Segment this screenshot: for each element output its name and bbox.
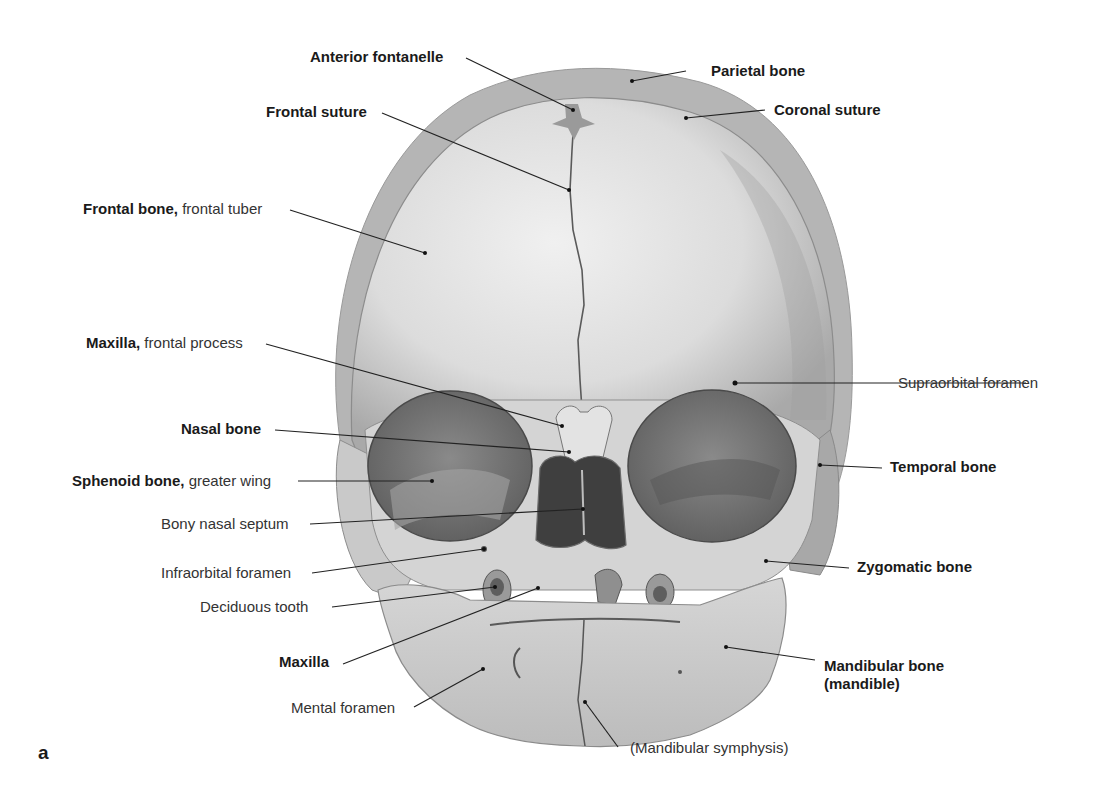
label-zygomatic-bone: Zygomatic bone <box>857 558 972 576</box>
skull-anatomy-figure: Anterior fontanelle Parietal bone Fronta… <box>0 0 1116 804</box>
label-sphenoid-bone: Sphenoid bone, greater wing <box>72 472 271 490</box>
label-coronal-suture: Coronal suture <box>774 101 881 119</box>
panel-letter: a <box>38 742 49 764</box>
label-bony-nasal-septum: Bony nasal septum <box>161 515 289 533</box>
label-infraorbital-foramen: Infraorbital foramen <box>161 564 291 582</box>
label-mandibular-bone: Mandibular bone (mandible) <box>824 657 944 693</box>
label-frontal-bone: Frontal bone, frontal tuber <box>83 200 262 218</box>
label-supraorbital-foramen: Supraorbital foramen <box>898 374 1038 392</box>
skull-illustration <box>0 0 1116 804</box>
nasal-cavity <box>536 456 626 549</box>
label-mandibular-symphysis: (Mandibular symphysis) <box>630 739 788 757</box>
label-anterior-fontanelle: Anterior fontanelle <box>310 48 443 66</box>
label-frontal-suture: Frontal suture <box>266 103 367 121</box>
label-maxilla: Maxilla <box>279 653 329 671</box>
label-mental-foramen: Mental foramen <box>291 699 395 717</box>
left-orbit <box>368 391 532 541</box>
label-maxilla-frontal-process: Maxilla, frontal process <box>86 334 243 352</box>
label-nasal-bone: Nasal bone <box>181 420 261 438</box>
label-deciduous-tooth: Deciduous tooth <box>200 598 308 616</box>
label-temporal-bone: Temporal bone <box>890 458 996 476</box>
label-parietal-bone: Parietal bone <box>711 62 805 80</box>
